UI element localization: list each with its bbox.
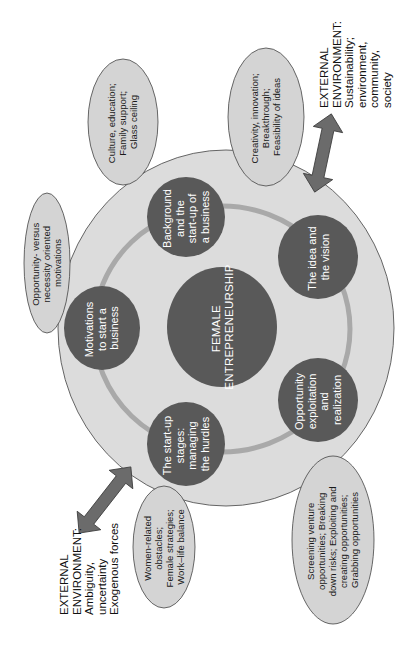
node-motivations-text: Motivations to start a business	[83, 299, 120, 358]
oval-creativity: Creativity, innovation; Breakthrough; Fe…	[228, 48, 304, 186]
external-environment-top-right: EXTERNAL ENVIRONMENT: Sustainability; en…	[318, 18, 393, 108]
oval-women-obstacles: Women-related obstacles; Female strategi…	[133, 486, 195, 608]
oval-culture: Culture, education; Family support; Glas…	[88, 59, 158, 185]
node-opportunity: Opportunity exploitation and realization	[278, 358, 358, 442]
node-background-text: Background and the start-up of a busines…	[161, 186, 211, 248]
female-entrepreneurship-diagram: Culture, education; Family support; Glas…	[0, 0, 409, 649]
external-environment-bottom-left: EXTERNAL ENVIRONMENT: Ambiguity, uncerta…	[58, 523, 120, 615]
node-background: Background and the start-up of a busines…	[147, 177, 225, 257]
node-startup-text: The start-up stages: managing the hurdle…	[161, 413, 211, 475]
node-startup: The start-up stages: managing the hurdle…	[147, 402, 225, 486]
node-idea: The idea and the vision	[278, 215, 358, 299]
oval-motivation-type: Opportunity- versus necessity oriented m…	[24, 193, 70, 333]
node-motivations: Motivations to start a business	[64, 286, 140, 370]
oval-women-obstacles-text: Women-related obstacles; Female strategi…	[142, 507, 186, 588]
oval-screening: Screening venture opportunities; Breakin…	[292, 456, 374, 624]
oval-screening-text: Screening venture opportunities; Breakin…	[305, 484, 360, 596]
